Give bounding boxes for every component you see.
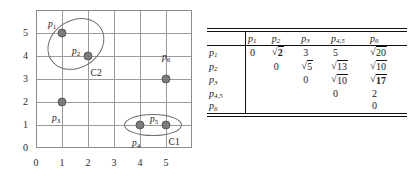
matrix-header: p1p2p3p4,5p6 [207,32,407,45]
point-label-p5: p5 [150,115,158,125]
y-axis-tick: 5 [14,28,28,38]
data-point-p1 [58,29,67,38]
matrix-cell: 0 [270,60,300,74]
point-label-p3: p3 [52,114,60,124]
point-label-p2: p2 [72,47,80,57]
matrix-cell: 10 [368,60,407,74]
matrix-cell: 5 [329,45,368,59]
matrix-column-header: p2 [270,32,300,45]
point-label-p6: p6 [162,53,170,63]
data-point-p3 [58,98,67,107]
matrix-cell [246,100,270,113]
point-label-p4: p4 [132,139,140,149]
matrix-row-header: p1 [207,45,246,59]
cluster-label-c2: C2 [91,69,102,79]
matrix-cell: 2 [270,45,300,59]
data-point-p2 [84,52,93,61]
point-label-p1: p1 [48,20,56,30]
cluster-label-c1: C1 [169,138,180,148]
x-axis-tick: 4 [133,158,147,168]
matrix-row: p3 01017 [207,73,407,87]
scatter-plot-panel: C2C1p1p2p3p4p5p6 012345 012345 [0,0,205,176]
matrix-column-header: p1 [246,32,270,45]
figure-root: C2C1p1p2p3p4p5p6 012345 012345 p1p2p3p4,… [0,0,410,176]
matrix-cell: 2 [368,87,407,100]
matrix-cell: 0 [299,73,329,87]
matrix-wrapper: p1p2p3p4,5p6 p1023520p2 051310p3 01017p4… [207,28,407,117]
x-axis-tick: 5 [159,158,173,168]
matrix-column-header: p4,5 [329,32,368,45]
y-axis-tick: 4 [14,51,28,61]
data-point-p4 [136,121,145,130]
matrix-cell [270,73,300,87]
matrix-cell [270,100,300,113]
distance-matrix-panel: p1p2p3p4,5p6 p1023520p2 051310p3 01017p4… [205,0,410,176]
matrix-row: p2 051310 [207,60,407,74]
matrix-cell [246,73,270,87]
matrix-corner-cell [207,32,246,45]
y-axis-tick: 0 [14,143,28,153]
x-axis-tick: 3 [107,158,121,168]
matrix-row: p4,5 02 [207,87,407,100]
x-axis-tick: 2 [81,158,95,168]
matrix-cell [329,100,368,113]
matrix-cell [246,60,270,74]
matrix-row: p6 0 [207,100,407,113]
matrix-row-header: p3 [207,73,246,87]
matrix-cell: 0 [329,87,368,100]
matrix-cell [270,87,300,100]
y-axis-tick: 3 [14,74,28,84]
matrix-cell [299,100,329,113]
matrix-cell: 0 [368,100,407,113]
x-axis-tick: 0 [29,158,43,168]
matrix-cell: 0 [246,45,270,59]
matrix-row-header: p4,5 [207,87,246,100]
x-axis-tick: 1 [55,158,69,168]
y-axis-tick: 1 [14,120,28,130]
table-bottom-rule [207,113,407,117]
matrix-header-row: p1p2p3p4,5p6 [207,32,407,45]
matrix-cell [246,87,270,100]
matrix-row: p1023520 [207,45,407,59]
matrix-cell: 20 [368,45,407,59]
matrix-column-header: p6 [368,32,407,45]
data-point-p5 [162,121,171,130]
matrix-cell: 13 [329,60,368,74]
distance-matrix-table: p1p2p3p4,5p6 p1023520p2 051310p3 01017p4… [207,32,407,113]
matrix-cell: 17 [368,73,407,87]
matrix-cell: 5 [299,60,329,74]
matrix-body: p1023520p2 051310p3 01017p4,5 02p6 0 [207,45,407,112]
data-point-p6 [162,75,171,84]
matrix-column-header: p3 [299,32,329,45]
y-axis-tick: 2 [14,97,28,107]
matrix-row-header: p2 [207,60,246,74]
matrix-cell [299,87,329,100]
matrix-cell: 3 [299,45,329,59]
matrix-cell: 10 [329,73,368,87]
matrix-row-header: p6 [207,100,246,113]
